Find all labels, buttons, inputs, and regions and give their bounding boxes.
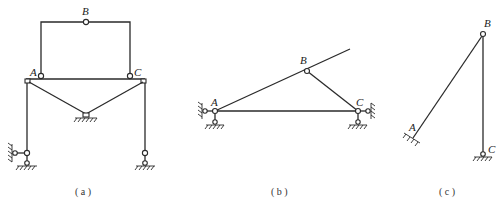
hinge-left-column-icon [24,150,29,155]
link-bc [307,71,358,111]
bar-ab [413,36,482,138]
figure-a: B A C ( a ) [8,5,155,198]
label-c: C [488,143,496,155]
caption-a: ( a ) [75,186,91,198]
caption-b: ( b ) [271,186,288,198]
label-b: B [484,17,491,29]
label-a: A [29,66,37,78]
pin-support-center-icon [74,113,97,122]
hinge-right-column-icon [142,150,147,155]
label-c: C [356,96,364,108]
pin-support-right-icon [135,161,155,170]
hinge-b-icon [481,32,486,37]
structural-diagrams: B A C ( a ) [0,0,499,204]
hinge-arch-right-icon [127,73,132,78]
upper-arch-member [41,22,130,77]
hinge-b-icon [305,69,310,74]
pin-support-left-icon [16,161,37,170]
bar-ab-extended [215,49,350,111]
hinge-b-icon [83,19,88,24]
wall-support-left-icon [8,143,17,162]
label-a: A [408,121,416,133]
fixed-support-a-icon [403,133,420,146]
caption-c: ( c ) [439,186,455,198]
label-b: B [300,54,307,66]
label-a: A [210,96,218,108]
figure-c: A B C ( c ) [403,17,496,198]
hinge-arch-left-icon [38,73,43,78]
figure-b: A B C ( b ) [198,49,375,198]
diagonal-right [86,82,143,114]
label-c: C [134,66,142,78]
diagonal-left [29,82,86,114]
label-b: B [82,5,89,17]
